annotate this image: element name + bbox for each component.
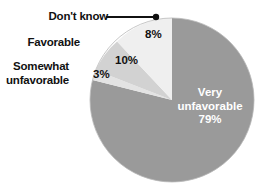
dont-know-leader-dot (153, 14, 159, 20)
callout-label-somewhat-unfavorable: Somewhat unfavorable (6, 60, 69, 87)
slice-percent-dont-know: 8% (145, 28, 162, 40)
callout-label-favorable: Favorable (27, 36, 80, 49)
slice-label-very-unfavorable-line2: unfavorable (164, 100, 256, 114)
callout-label-somewhat-unfavorable-line1: Somewhat (13, 60, 69, 72)
slice-label-very-unfavorable-line3: 79% (164, 113, 256, 127)
slice-label-very-unfavorable: Very unfavorable 79% (164, 86, 256, 127)
pie-chart-screenshot: Don't know Favorable Somewhat unfavorabl… (0, 0, 265, 194)
slice-percent-favorable: 10% (115, 54, 138, 66)
slice-percent-somewhat-unfavorable: 3% (93, 68, 110, 80)
pie-chart-figure: Don't know Favorable Somewhat unfavorabl… (0, 0, 265, 194)
callout-label-somewhat-unfavorable-line2: unfavorable (6, 74, 69, 86)
callout-label-dont-know: Don't know (48, 10, 108, 23)
slice-label-very-unfavorable-line1: Very (164, 86, 256, 100)
